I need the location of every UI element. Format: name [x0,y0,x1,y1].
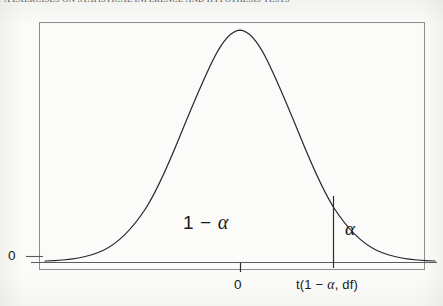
document-page: A EXERCISES ON STATISTICAL INFERENCE AND… [0,0,443,306]
x-axis-critical-value-label: t(1 − α, df) [296,277,358,293]
alpha-symbol: α [327,277,334,292]
t-distribution-curve [45,30,435,261]
critical-value-suffix: , df) [335,277,358,292]
figure-canvas [0,0,443,306]
confidence-region-label: 1 − α [183,211,229,234]
x-axis-origin-label: 0 [234,277,242,292]
y-axis-origin-label: 0 [8,248,16,263]
rejection-region-label: α [345,218,355,240]
alpha-symbol: α [218,211,229,233]
confidence-region-prefix: 1 − [183,212,218,233]
critical-value-prefix: t(1 − [296,277,327,292]
